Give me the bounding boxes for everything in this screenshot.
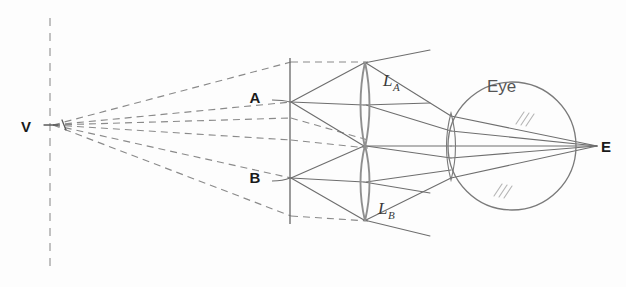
label-lens-a: L	[382, 71, 392, 90]
label-eye-point-e: E	[601, 138, 611, 155]
label-lens-b-subscript: B	[388, 209, 395, 221]
diagram-background	[0, 0, 626, 287]
label-lens-a-subscript: A	[392, 81, 400, 93]
optical-diagram-canvas: V A B L A L B Eye E	[0, 0, 626, 287]
label-point-a: A	[250, 89, 261, 106]
ray-diagram-svg: V A B L A L B Eye E	[0, 0, 626, 287]
label-point-b: B	[250, 169, 261, 186]
label-lens-b: L	[377, 199, 387, 218]
label-virtual-point-v: V	[21, 118, 31, 135]
label-eye: Eye	[487, 77, 516, 96]
